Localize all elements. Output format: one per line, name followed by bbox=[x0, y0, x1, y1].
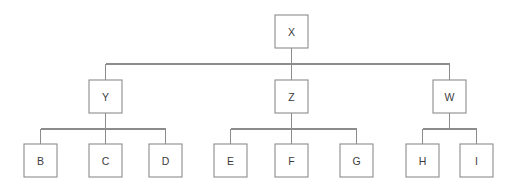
node-w[interactable]: W bbox=[433, 80, 466, 113]
node-label-f: F bbox=[288, 155, 294, 167]
node-label-h: H bbox=[419, 155, 427, 167]
tree-diagram: XYZWBCDEFGHI bbox=[0, 0, 523, 188]
node-z[interactable]: Z bbox=[275, 80, 308, 113]
node-label-i: I bbox=[475, 155, 478, 167]
node-x[interactable]: X bbox=[275, 15, 308, 48]
node-c[interactable]: C bbox=[89, 144, 122, 177]
node-e[interactable]: E bbox=[214, 144, 247, 177]
node-label-g: G bbox=[352, 155, 360, 167]
node-label-w: W bbox=[445, 91, 455, 103]
node-label-z: Z bbox=[288, 91, 295, 103]
node-b[interactable]: B bbox=[24, 144, 57, 177]
node-h[interactable]: H bbox=[406, 144, 439, 177]
nodes-layer: XYZWBCDEFGHI bbox=[24, 15, 493, 177]
node-y[interactable]: Y bbox=[89, 80, 122, 113]
node-i[interactable]: I bbox=[460, 144, 493, 177]
node-g[interactable]: G bbox=[340, 144, 373, 177]
node-label-c: C bbox=[102, 155, 110, 167]
node-label-e: E bbox=[227, 155, 234, 167]
node-label-b: B bbox=[37, 155, 44, 167]
tree-diagram-canvas: XYZWBCDEFGHI bbox=[0, 0, 523, 188]
node-label-d: D bbox=[162, 155, 170, 167]
node-d[interactable]: D bbox=[149, 144, 182, 177]
node-label-x: X bbox=[288, 26, 295, 38]
node-f[interactable]: F bbox=[275, 144, 308, 177]
node-label-y: Y bbox=[102, 91, 109, 103]
